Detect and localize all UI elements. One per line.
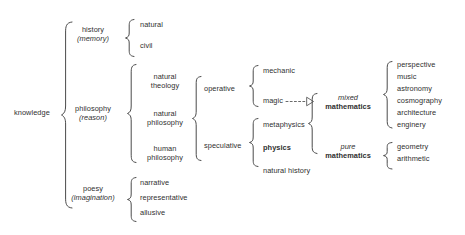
brace-speculative — [248, 117, 260, 169]
node-speculative: speculative — [204, 141, 242, 150]
node-human-philosophy: human philosophy — [147, 144, 183, 163]
node-architecture: architecture — [397, 108, 436, 117]
node-allusive: allusive — [140, 208, 165, 217]
brace-philosophy — [126, 63, 138, 165]
node-narrative: narrative — [140, 178, 169, 187]
node-geometry: geometry — [397, 142, 428, 151]
node-natural-theology: natural theology — [151, 72, 179, 91]
node-mixed-mathematics: mixed mathematics — [325, 93, 371, 112]
brace-history — [124, 18, 136, 58]
node-pure-mathematics: pure mathematics — [325, 142, 371, 161]
node-astronomy: astronomy — [397, 84, 432, 93]
brace-operative — [248, 64, 260, 108]
brace-mixed-mathematics — [382, 60, 394, 132]
node-operative: operative — [204, 84, 235, 93]
node-enginery: enginery — [397, 120, 426, 129]
node-philosophy: philosophy (reason) — [75, 104, 111, 123]
brace-metaphysics-mathematics — [307, 92, 319, 156]
node-poesy: poesy (imagination) — [71, 184, 114, 203]
brace-natural-philosophy — [191, 75, 203, 163]
node-magic: magic — [263, 96, 283, 105]
node-metaphysics: metaphysics — [263, 120, 305, 129]
node-history: history (memory) — [77, 25, 109, 44]
node-history-natural: natural — [140, 20, 163, 29]
node-music: music — [397, 72, 417, 81]
node-cosmography: cosmography — [397, 96, 442, 105]
node-physics: physics — [263, 143, 291, 152]
node-knowledge: knowledge — [14, 108, 50, 117]
node-natural-philosophy: natural philosophy — [147, 109, 183, 128]
node-perspective: perspective — [397, 60, 435, 69]
brace-knowledge — [60, 20, 74, 210]
node-natural-history: natural history — [263, 166, 310, 175]
node-representative: representative — [140, 193, 188, 202]
brace-poesy — [126, 176, 138, 224]
node-arithmetic: arithmetic — [397, 154, 430, 163]
node-mechanic: mechanic — [263, 66, 295, 75]
node-history-civil: civil — [140, 41, 153, 50]
brace-pure-mathematics — [382, 141, 394, 171]
tree-of-knowledge-diagram: knowledge history (memory) philosophy (r… — [0, 0, 465, 235]
